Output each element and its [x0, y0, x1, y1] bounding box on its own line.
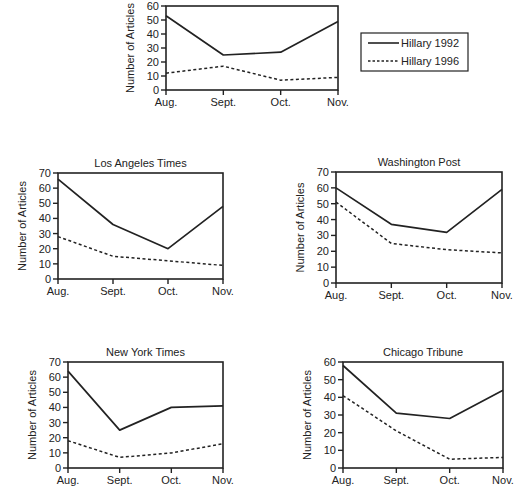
y-tick-label: 10: [49, 447, 61, 459]
x-tick-label: Nov.: [491, 289, 513, 301]
series-hillary-1996: [343, 396, 503, 460]
y-tick-label: 50: [39, 197, 51, 209]
y-axis-label: Number of Articles: [26, 370, 38, 460]
x-tick-label: Aug.: [155, 96, 178, 108]
chart-title: New York Times: [106, 346, 185, 358]
y-tick-label: 50: [324, 374, 336, 386]
y-tick-label: 20: [147, 56, 159, 68]
x-tick-label: Oct.: [440, 474, 460, 486]
chart-new-york-times: New York Times010203040506070Aug.Sept.Oc…: [26, 346, 234, 486]
plot-frame: [68, 362, 223, 468]
x-tick-label: Sept.: [378, 289, 404, 301]
y-tick-label: 50: [147, 14, 159, 26]
y-tick-label: 40: [147, 28, 159, 40]
series-hillary-1996: [166, 66, 338, 80]
series-hillary-1992: [68, 371, 223, 430]
y-tick-label: 70: [39, 167, 51, 179]
y-tick-label: 70: [49, 356, 61, 368]
legend-label-1996: Hillary 1996: [401, 55, 459, 67]
y-tick-label: 20: [39, 243, 51, 255]
y-tick-label: 0: [330, 462, 336, 474]
x-tick-label: Aug.: [325, 289, 348, 301]
chart-washington-post: Washington Post010203040506070Aug.Sept.O…: [294, 156, 513, 301]
y-axis-label: Number of Articles: [16, 181, 28, 271]
x-tick-label: Nov.: [212, 285, 234, 297]
y-tick-label: 50: [49, 386, 61, 398]
x-tick-label: Oct.: [161, 474, 181, 486]
series-hillary-1996: [68, 441, 223, 458]
y-tick-label: 30: [317, 229, 329, 241]
chart-title: Washington Post: [378, 156, 461, 168]
y-tick-label: 60: [317, 182, 329, 194]
y-tick-label: 60: [324, 356, 336, 368]
x-tick-label: Aug.: [332, 474, 355, 486]
chart-la-times: Los Angeles Times010203040506070Aug.Sept…: [16, 157, 234, 297]
y-tick-label: 20: [324, 427, 336, 439]
series-hillary-1992: [343, 366, 503, 419]
y-tick-label: 30: [324, 409, 336, 421]
y-tick-label: 10: [324, 444, 336, 456]
x-tick-label: Nov.: [212, 474, 234, 486]
y-tick-label: 40: [49, 401, 61, 413]
y-axis-label: Number of Articles: [294, 182, 306, 272]
y-tick-label: 60: [39, 182, 51, 194]
x-tick-label: Sept.: [100, 285, 126, 297]
y-tick-label: 0: [323, 277, 329, 289]
y-tick-label: 0: [55, 462, 61, 474]
legend: Hillary 1992 Hillary 1996: [361, 33, 468, 71]
y-tick-label: 30: [147, 42, 159, 54]
x-tick-label: Nov.: [327, 96, 349, 108]
chart-chicago-tribune: Chicago Tribune0102030405060Aug.Sept.Oct…: [301, 346, 514, 486]
y-tick-label: 0: [153, 84, 159, 96]
y-tick-label: 40: [324, 391, 336, 403]
y-tick-label: 40: [39, 212, 51, 224]
chart-figure: 0102030405060Aug.Sept.Oct.Nov.Number of …: [0, 0, 529, 504]
series-hillary-1992: [166, 16, 338, 55]
y-axis-label: Number of Articles: [124, 3, 136, 93]
y-tick-label: 50: [317, 198, 329, 210]
legend-label-1992: Hillary 1992: [401, 37, 459, 49]
chart-title: Los Angeles Times: [94, 157, 187, 169]
y-tick-label: 60: [147, 0, 159, 12]
series-hillary-1992: [58, 179, 223, 249]
y-tick-label: 10: [39, 258, 51, 270]
y-tick-label: 10: [147, 70, 159, 82]
y-tick-label: 20: [317, 245, 329, 257]
series-hillary-1996: [58, 237, 223, 266]
y-axis-label: Number of Articles: [301, 370, 313, 460]
chart-overall: 0102030405060Aug.Sept.Oct.Nov.Number of …: [124, 0, 349, 108]
x-tick-label: Aug.: [57, 474, 80, 486]
y-tick-label: 10: [317, 261, 329, 273]
y-tick-label: 60: [49, 371, 61, 383]
series-hillary-1992: [336, 188, 502, 232]
y-tick-label: 30: [49, 417, 61, 429]
y-tick-label: 70: [317, 166, 329, 178]
x-tick-label: Aug.: [47, 285, 70, 297]
y-tick-label: 40: [317, 214, 329, 226]
charts-container: 0102030405060Aug.Sept.Oct.Nov.Number of …: [16, 0, 514, 486]
y-tick-label: 20: [49, 432, 61, 444]
x-tick-label: Sept.: [107, 474, 133, 486]
x-tick-label: Nov.: [492, 474, 514, 486]
x-tick-label: Oct.: [437, 289, 457, 301]
y-tick-label: 0: [45, 273, 51, 285]
plot-frame: [166, 6, 338, 90]
x-tick-label: Oct.: [271, 96, 291, 108]
chart-title: Chicago Tribune: [383, 346, 463, 358]
x-tick-label: Sept.: [210, 96, 236, 108]
y-tick-label: 30: [39, 228, 51, 240]
x-tick-label: Oct.: [158, 285, 178, 297]
x-tick-label: Sept.: [383, 474, 409, 486]
